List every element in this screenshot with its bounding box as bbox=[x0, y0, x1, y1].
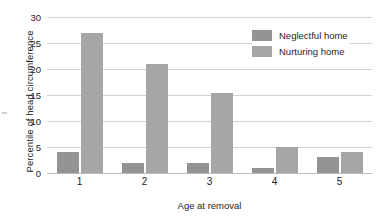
y-tick-label: 0 bbox=[1, 168, 41, 179]
legend: Neglectful homeNurturing home bbox=[252, 28, 350, 59]
legend-item: Nurturing home bbox=[252, 46, 348, 57]
x-axis-ticks: 12345 bbox=[47, 176, 372, 194]
y-tick-label: 15 bbox=[1, 90, 41, 101]
y-tick-label: 5 bbox=[1, 142, 41, 153]
bar bbox=[252, 168, 274, 173]
bar bbox=[122, 163, 144, 173]
legend-label: Neglectful home bbox=[279, 30, 348, 41]
x-tick-label: 2 bbox=[142, 176, 148, 187]
x-tick-label: 4 bbox=[272, 176, 278, 187]
y-tick-label: 25 bbox=[1, 38, 41, 49]
bar bbox=[57, 152, 79, 173]
bar bbox=[317, 157, 339, 173]
y-axis-ticks: 051015202530 bbox=[0, 17, 41, 173]
bar bbox=[81, 33, 103, 173]
y-tick-label: 30 bbox=[1, 12, 41, 23]
legend-label: Nurturing home bbox=[279, 46, 344, 57]
legend-swatch-icon bbox=[252, 46, 272, 57]
x-tick-label: 3 bbox=[207, 176, 213, 187]
bar bbox=[187, 163, 209, 173]
bar bbox=[341, 152, 363, 173]
bar bbox=[276, 147, 298, 173]
x-tick-label: 5 bbox=[337, 176, 343, 187]
y-tick-label: 20 bbox=[1, 64, 41, 75]
bar bbox=[146, 64, 168, 173]
bar bbox=[211, 93, 233, 173]
x-axis-title: Age at removal bbox=[47, 200, 372, 211]
gridline bbox=[47, 173, 372, 174]
bar-chart: Percentile of head circumference 0510152… bbox=[0, 0, 381, 223]
legend-swatch-icon bbox=[252, 30, 272, 41]
y-tick-label: 10 bbox=[1, 116, 41, 127]
legend-item: Neglectful home bbox=[252, 30, 348, 41]
x-tick-label: 1 bbox=[77, 176, 83, 187]
